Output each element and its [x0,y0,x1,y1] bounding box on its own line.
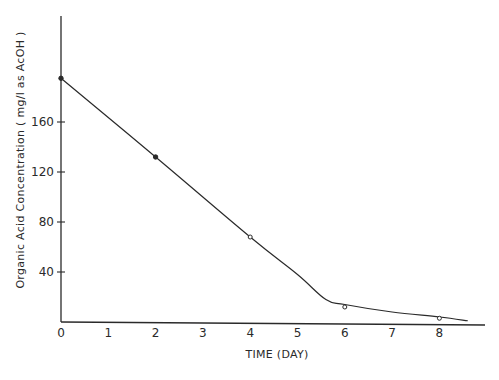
data-markers [59,76,442,320]
plot-area [59,76,468,321]
y-tick-label: 80 [39,215,54,229]
data-point-marker [248,235,252,239]
x-tick-label: 3 [199,326,207,340]
axes [61,16,485,325]
x-axis [61,322,485,325]
data-point-marker [343,305,347,309]
x-tick-label: 5 [294,326,302,340]
y-ticks: 4080120160 [31,115,65,279]
data-point-marker [59,76,63,80]
data-curve [61,78,468,321]
x-tick-label: 1 [104,326,112,340]
x-tick-label: 7 [388,326,396,340]
x-tick-label: 0 [57,326,65,340]
y-tick-label: 160 [31,115,54,129]
y-axis-title: Organic Acid Concentration ( mg/l as AcO… [14,31,27,288]
x-tick-label: 8 [436,326,444,340]
line-chart: 4080120160 012345678 TIME (DAY) Organic … [0,0,499,380]
x-tick-label: 4 [246,326,254,340]
data-point-marker [153,155,157,159]
x-tick-label: 6 [341,326,349,340]
x-tick-label: 2 [152,326,160,340]
y-tick-label: 40 [39,265,54,279]
x-axis-title: TIME (DAY) [244,348,308,361]
data-point-marker [437,316,441,320]
y-tick-label: 120 [31,165,54,179]
x-ticks: 012345678 [57,326,443,340]
